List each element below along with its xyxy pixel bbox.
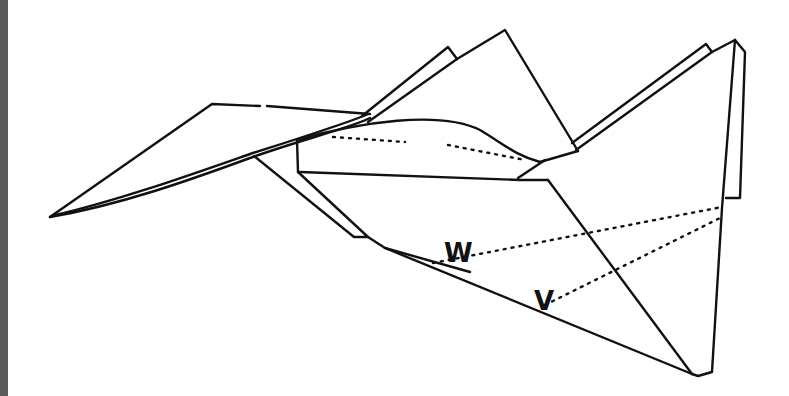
label-w: W	[444, 238, 473, 268]
central-flap	[297, 30, 578, 178]
body-line	[300, 172, 548, 180]
keel-strip	[254, 140, 470, 272]
label-v: V	[534, 286, 554, 316]
right-wing	[385, 40, 745, 376]
paper-airplane-diagram: W V	[0, 0, 789, 396]
dotted-line-w	[433, 207, 722, 263]
left-wing	[50, 104, 370, 217]
